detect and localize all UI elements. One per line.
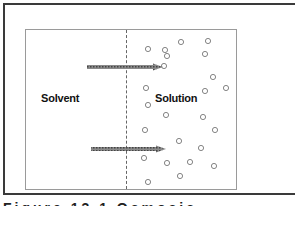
solute-particle-icon <box>177 173 182 178</box>
solute-particle-icon <box>163 112 168 117</box>
solute-particle-icon <box>187 159 192 164</box>
solute-particle-icon <box>178 39 183 44</box>
solute-particle-icon <box>164 160 169 165</box>
solute-particle-icon <box>205 38 210 43</box>
figure-caption: Figure 13.1 Osmosis <box>3 198 197 206</box>
solute-particle-icon <box>202 88 207 93</box>
solution-label: Solution <box>155 92 197 104</box>
arrow-shaft <box>91 147 156 151</box>
solute-particles <box>141 38 228 184</box>
solute-particle-icon <box>202 51 207 56</box>
solute-particle-icon <box>145 102 150 107</box>
solute-particle-icon <box>145 46 150 51</box>
solute-particle-icon <box>176 138 181 143</box>
arrow-shaft <box>87 65 153 69</box>
solute-particle-icon <box>164 53 169 58</box>
solute-particle-icon <box>210 74 215 79</box>
solute-particle-icon <box>141 155 146 160</box>
solute-particle-icon <box>198 145 203 150</box>
solute-particle-icon <box>142 127 147 132</box>
solute-particle-icon <box>212 127 217 132</box>
solute-particle-icon <box>145 179 150 184</box>
solute-particle-icon <box>223 85 228 90</box>
solute-particle-icon <box>200 114 205 119</box>
solute-particle-icon <box>211 163 216 168</box>
solvent-flow-arrows <box>87 64 166 153</box>
solute-particle-icon <box>143 85 148 90</box>
solvent-label: Solvent <box>41 92 79 104</box>
arrow-head-icon <box>156 146 166 153</box>
solute-particle-icon <box>161 63 166 68</box>
solute-particle-icon <box>162 47 167 52</box>
